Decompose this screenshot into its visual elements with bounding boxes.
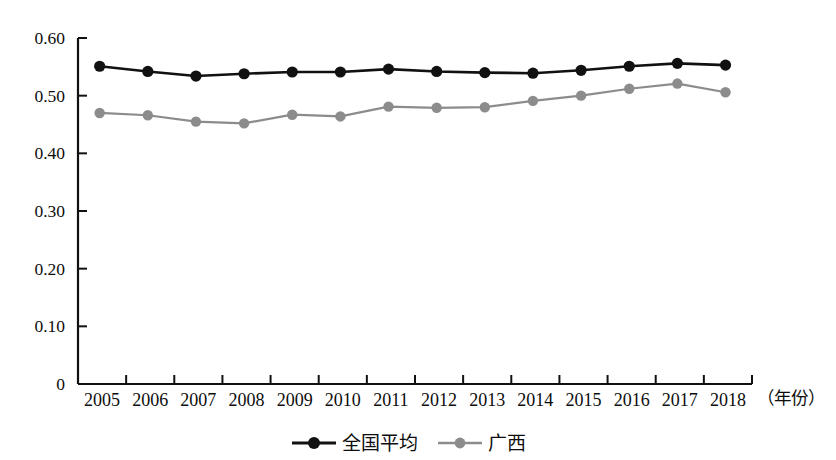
x-tick-label: 2010 xyxy=(325,390,361,410)
data-point xyxy=(238,68,249,79)
data-point xyxy=(624,61,635,72)
x-axis-ticks xyxy=(78,375,752,384)
y-tick-label: 0.10 xyxy=(34,316,65,336)
data-point xyxy=(576,90,586,100)
data-point xyxy=(480,102,490,112)
data-point xyxy=(335,66,346,77)
data-point xyxy=(335,111,345,121)
data-point xyxy=(431,66,442,77)
axis-group xyxy=(78,38,752,384)
y-axis-ticks xyxy=(78,38,87,384)
data-point xyxy=(239,118,249,128)
series-layer xyxy=(94,58,731,129)
x-tick-label: 2006 xyxy=(132,390,168,410)
line-chart: 0.600.500.400.300.200.100 20052006200720… xyxy=(0,0,836,460)
x-tick-label: 2011 xyxy=(373,390,408,410)
y-tick-label: 0.40 xyxy=(34,143,65,163)
data-point xyxy=(479,67,490,78)
data-point xyxy=(527,68,538,79)
data-point xyxy=(143,110,153,120)
x-tick-label: 2017 xyxy=(662,390,698,410)
chart-legend: 全国平均广西 xyxy=(292,433,526,454)
series-guangxi xyxy=(94,78,730,128)
series-national-average xyxy=(94,58,731,82)
chart-canvas: 0.600.500.400.300.200.100 20052006200720… xyxy=(0,0,836,460)
data-point xyxy=(383,101,393,111)
x-axis-unit-label: （年份） xyxy=(757,388,825,408)
data-point xyxy=(287,110,297,120)
y-tick-label: 0.50 xyxy=(34,86,65,106)
legend-label: 广西 xyxy=(488,433,526,454)
legend-marker-icon xyxy=(455,438,466,449)
data-point xyxy=(672,58,683,69)
x-tick-label: 2005 xyxy=(84,390,120,410)
legend-item-guangxi[interactable]: 广西 xyxy=(438,433,526,454)
x-tick-label: 2009 xyxy=(277,390,313,410)
y-axis-tick-labels: 0.600.500.400.300.200.100 xyxy=(34,28,65,394)
y-tick-label: 0.60 xyxy=(34,28,65,48)
data-point xyxy=(191,116,201,126)
y-tick-label: 0.20 xyxy=(34,259,65,279)
x-tick-label: 2014 xyxy=(517,390,553,410)
legend-item-national-average[interactable]: 全国平均 xyxy=(292,433,418,454)
data-point xyxy=(672,78,682,88)
data-point xyxy=(575,65,586,76)
x-tick-label: 2012 xyxy=(421,390,457,410)
data-point xyxy=(720,87,730,97)
legend-label: 全国平均 xyxy=(342,433,418,454)
data-point xyxy=(624,84,634,94)
data-point xyxy=(94,108,104,118)
data-point xyxy=(94,61,105,72)
legend-marker-icon xyxy=(308,437,320,449)
data-point xyxy=(383,64,394,75)
data-point xyxy=(190,70,201,81)
y-tick-label: 0.30 xyxy=(34,201,65,221)
x-axis-tick-labels: 2005200620072008200920102011201220132014… xyxy=(84,390,746,410)
x-tick-label: 2016 xyxy=(614,390,650,410)
data-point xyxy=(720,60,731,71)
x-tick-label: 2008 xyxy=(229,390,265,410)
x-tick-label: 2015 xyxy=(566,390,602,410)
data-point xyxy=(287,66,298,77)
x-tick-label: 2013 xyxy=(469,390,505,410)
data-point xyxy=(142,66,153,77)
data-point xyxy=(528,96,538,106)
x-tick-label: 2007 xyxy=(180,390,216,410)
y-tick-label: 0 xyxy=(56,374,65,394)
x-tick-label: 2018 xyxy=(710,390,746,410)
data-point xyxy=(431,103,441,113)
